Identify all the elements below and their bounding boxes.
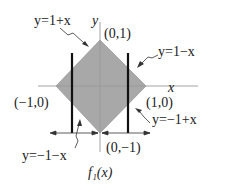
x-axis-label: x: [167, 80, 175, 95]
pointer-lower-right: [140, 112, 150, 123]
edge-label-lower-left: y=−1−x: [22, 148, 67, 163]
vertex-label-right: (1,0): [146, 95, 173, 111]
vertex-label-top: (0,1): [104, 26, 131, 42]
right-interval-arrow: [102, 131, 150, 135]
vertex-label-bottom: (0,−1): [106, 140, 141, 156]
vertex-label-left: (−1,0): [14, 95, 49, 111]
left-interval-arrow: [50, 131, 98, 135]
diamond-region: [56, 40, 146, 133]
diagram-canvas: y=1+x y (0,1) y=1−x x (−1,0) (1,0) y=−1+…: [0, 0, 230, 195]
arrowhead-icon: [135, 108, 142, 113]
pointer-upper-left: [60, 28, 84, 43]
y-axis-label: y: [90, 13, 99, 28]
pointer-upper-right: [141, 55, 158, 64]
arrowhead-icon: [77, 119, 82, 126]
pointer-lower-left: [75, 124, 79, 148]
function-label: f₁(x): [88, 165, 113, 181]
edge-label-upper-left: y=1+x: [34, 13, 71, 28]
edge-label-upper-right: y=1−x: [158, 44, 195, 59]
edge-label-lower-right: y=−1+x: [152, 112, 197, 127]
